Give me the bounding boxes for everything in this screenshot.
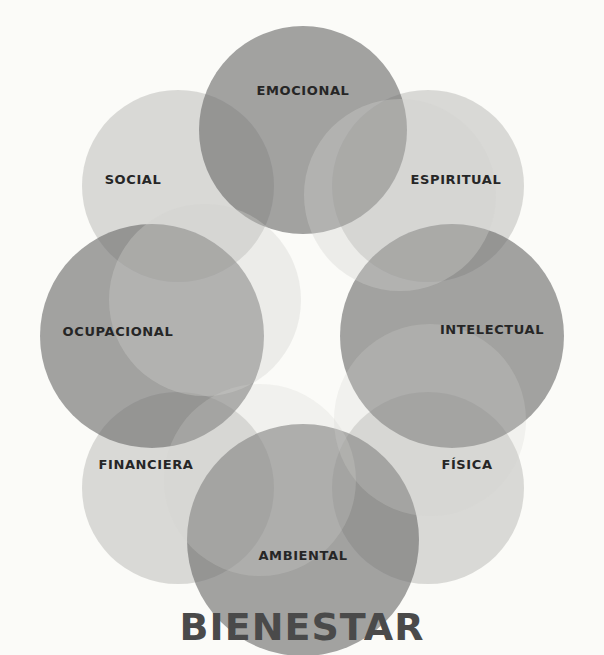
wellness-venn-diagram: EMOCIONAL ESPIRITUAL INTELECTUAL FÍSICA … — [0, 0, 604, 655]
label-fisica: FÍSICA — [441, 457, 492, 472]
label-social: SOCIAL — [105, 172, 162, 187]
label-intelectual: INTELECTUAL — [440, 322, 544, 337]
label-emocional: EMOCIONAL — [257, 83, 350, 98]
label-ambiental: AMBIENTAL — [258, 548, 347, 563]
label-ocupacional: OCUPACIONAL — [63, 324, 174, 339]
label-financiera: FINANCIERA — [99, 457, 194, 472]
diagram-title: BIENESTAR — [180, 605, 425, 649]
label-espiritual: ESPIRITUAL — [411, 172, 502, 187]
